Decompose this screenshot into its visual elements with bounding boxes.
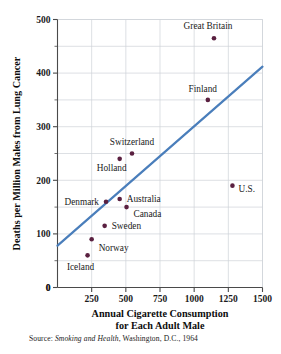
- data-point-label: Finland: [189, 84, 218, 94]
- data-point[interactable]: [89, 237, 94, 242]
- source-caption: Source: Smoking and Health, Washington, …: [29, 334, 198, 343]
- data-point-label: Canada: [134, 209, 162, 219]
- data-point-label: Denmark: [64, 197, 99, 207]
- data-point-label: Holland: [97, 163, 127, 173]
- chart-canvas: 01002003004005000250500750100012501500Gr…: [0, 0, 281, 354]
- x-tick-label: 1250: [219, 294, 238, 304]
- data-point[interactable]: [124, 205, 129, 210]
- y-tick-label: 500: [36, 15, 51, 25]
- data-point-label: Switzerland: [110, 137, 155, 147]
- source-prefix: Source:: [29, 334, 55, 343]
- data-point[interactable]: [117, 197, 122, 202]
- source-title: Smoking and Health: [55, 334, 119, 343]
- data-point[interactable]: [117, 157, 122, 162]
- x-tick-label: 750: [153, 294, 168, 304]
- y-tick-label: 200: [36, 176, 51, 186]
- data-point[interactable]: [206, 98, 211, 103]
- scatter-plot-figure: 01002003004005000250500750100012501500Gr…: [0, 0, 281, 354]
- data-point[interactable]: [102, 224, 107, 229]
- y-axis-title: Deaths per Million Males from Lung Cance…: [11, 56, 22, 250]
- data-point[interactable]: [85, 253, 90, 258]
- data-point-label: Great Britain: [184, 21, 233, 31]
- x-tick-label: 250: [85, 294, 100, 304]
- data-point[interactable]: [104, 199, 109, 204]
- x-axis-title-line1: Annual Cigarette Consumption: [92, 308, 229, 319]
- source-suffix: , Washington, D.C., 1964: [119, 334, 198, 343]
- data-point-label: Australia: [127, 194, 161, 204]
- data-point[interactable]: [130, 151, 135, 156]
- data-point-label: U.S.: [238, 184, 255, 194]
- x-tick-label: 1500: [253, 294, 272, 304]
- data-point[interactable]: [212, 36, 217, 41]
- x-axis-title-line2: for Each Adult Male: [116, 320, 205, 331]
- y-tick-label: 100: [36, 229, 51, 239]
- y-tick-label: 400: [36, 68, 51, 78]
- x-tick-label: 500: [119, 294, 134, 304]
- data-point-label: Sweden: [112, 221, 142, 231]
- data-point[interactable]: [230, 183, 235, 188]
- x-tick-label: 0: [46, 283, 51, 293]
- data-point-label: Iceland: [67, 262, 95, 272]
- data-point-label: Norway: [99, 243, 129, 253]
- x-tick-label: 1000: [185, 294, 204, 304]
- y-tick-label: 300: [36, 122, 51, 132]
